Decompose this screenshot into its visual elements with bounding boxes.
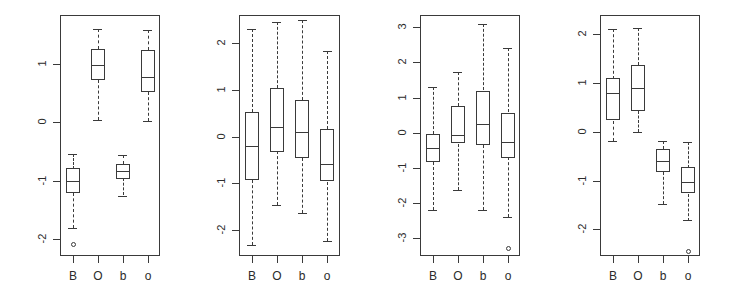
y-axis-tick-mark	[593, 181, 600, 182]
y-axis-tick-label: 0	[577, 121, 588, 143]
outlier-point	[686, 249, 691, 254]
y-axis-tick-label: 1	[577, 72, 588, 94]
median-line	[606, 93, 620, 94]
x-axis-tick-mark	[688, 256, 689, 263]
upper-whisker-cap	[683, 142, 692, 143]
lower-whisker	[638, 111, 639, 132]
box-iqr	[681, 167, 695, 193]
lower-whisker	[613, 121, 614, 141]
median-line	[656, 161, 670, 162]
x-axis-tick-mark	[638, 256, 639, 263]
upper-whisker	[638, 28, 639, 65]
y-axis-tick-mark	[593, 229, 600, 230]
x-axis-tick-label-o: o	[673, 270, 703, 282]
y-axis-tick-label: -1	[577, 170, 588, 192]
lower-whisker-cap	[608, 141, 617, 142]
lower-whisker	[663, 172, 664, 204]
lower-whisker-cap	[683, 220, 692, 221]
median-line	[631, 88, 645, 89]
upper-whisker-cap	[658, 141, 667, 142]
upper-whisker-cap	[608, 29, 617, 30]
boxplot-figure: 10-1-2BObo210-1-2BObo3210-1-2-3BObo210-1…	[0, 0, 729, 303]
x-axis-tick-mark	[613, 256, 614, 263]
y-axis-tick-label: -2	[577, 218, 588, 240]
y-axis-tick-label: 2	[577, 23, 588, 45]
lower-whisker	[688, 194, 689, 221]
upper-whisker	[663, 141, 664, 149]
upper-whisker	[613, 29, 614, 79]
y-axis-tick-mark	[593, 34, 600, 35]
upper-whisker	[688, 142, 689, 168]
y-axis-tick-mark	[593, 132, 600, 133]
box-iqr	[606, 78, 620, 120]
x-axis-tick-mark	[663, 256, 664, 263]
median-line	[681, 182, 695, 183]
y-axis-tick-mark	[593, 83, 600, 84]
upper-whisker-cap	[633, 28, 642, 29]
boxplot-panel-4: 210-1-2BObo	[0, 0, 729, 303]
lower-whisker-cap	[633, 132, 642, 133]
lower-whisker-cap	[658, 204, 667, 205]
